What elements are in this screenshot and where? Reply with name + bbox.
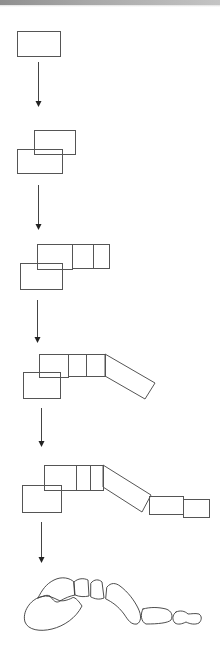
block-rect [18, 32, 61, 57]
angled-block [103, 465, 151, 512]
stage-1 [18, 32, 61, 57]
progression-diagram [0, 0, 220, 648]
bone-proximal-phalanx [141, 608, 172, 625]
down-arrow-icon [36, 185, 42, 230]
down-arrow-icon [35, 300, 41, 343]
stage-4 [24, 354, 156, 399]
bone-cuneiform [91, 580, 104, 599]
stage-3 [21, 245, 110, 290]
bone-metatarsal [106, 584, 141, 625]
block-rect [184, 500, 210, 518]
stage-2 [18, 131, 76, 174]
stage-5 [23, 465, 210, 518]
block-rect [150, 497, 184, 515]
down-arrow-icon [36, 62, 42, 107]
arrows-layer [35, 62, 45, 563]
block-rect [87, 355, 106, 377]
stage-6 [24, 578, 201, 631]
block-rect [69, 355, 87, 377]
block-rect [38, 245, 73, 270]
block-rect [94, 245, 110, 269]
bone-distal-phalanx [173, 611, 201, 624]
block-rect [35, 131, 76, 155]
block-rect [45, 466, 77, 491]
block-rect [18, 150, 63, 174]
bone-talus [38, 578, 75, 602]
block-rect [73, 245, 94, 269]
down-arrow-icon [39, 522, 45, 563]
stages-layer [18, 32, 210, 631]
bone-calcaneus [24, 596, 82, 630]
block-rect [77, 466, 91, 491]
block-rect [21, 264, 63, 290]
block-rect [91, 466, 104, 491]
block-rect [24, 373, 61, 399]
block-rect [40, 355, 69, 378]
angled-block [105, 354, 155, 399]
block-rect [23, 486, 62, 513]
bone-navicular [74, 579, 89, 597]
down-arrow-icon [39, 408, 45, 447]
